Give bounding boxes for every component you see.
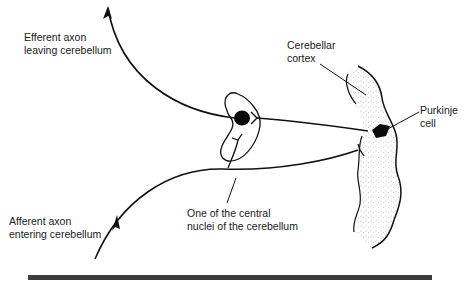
purkinje-label-line-2: cell	[420, 117, 458, 130]
bottom-divider-rule	[28, 275, 432, 280]
nucleus-label-line-2: nuclei of the cerebellum	[187, 220, 298, 233]
purkinje-synapse-terminal	[251, 112, 257, 124]
afferent-label-line-2: entering cerebellum	[9, 228, 101, 241]
central-nucleus-label: One of the central nuclei of the cerebel…	[187, 207, 298, 233]
central-nucleus-outline	[221, 93, 260, 161]
efferent-arrowhead-icon	[103, 6, 112, 19]
purkinje-cell-label: Purkinje cell	[420, 104, 458, 130]
efferent-axon	[108, 8, 235, 118]
nucleus-leader-line	[227, 178, 236, 203]
afferent-axon-label: Afferent axon entering cerebellum	[9, 215, 101, 241]
efferent-axon-label: Efferent axon leaving cerebellum	[24, 31, 112, 57]
cortex-label-line-2: cortex	[287, 52, 335, 65]
cortex-label-line-1: Cerebellar	[287, 39, 335, 52]
cerebellum-circuit-diagram: Efferent axon leaving cerebellum Cerebel…	[0, 0, 468, 287]
afferent-arrowhead-icon	[112, 215, 120, 231]
afferent-collateral-terminal	[232, 134, 242, 140]
afferent-label-line-1: Afferent axon	[9, 215, 101, 228]
nucleus-neuron-soma	[234, 111, 250, 126]
cerebellar-cortex-shape	[345, 66, 401, 248]
afferent-axon	[95, 150, 358, 259]
purkinje-label-line-1: Purkinje	[420, 104, 458, 117]
cerebellar-cortex-label: Cerebellar cortex	[287, 39, 335, 65]
afferent-collateral	[228, 140, 238, 168]
purkinje-axon	[256, 118, 368, 131]
nucleus-label-line-1: One of the central	[187, 207, 298, 220]
efferent-label-line-2: leaving cerebellum	[24, 44, 112, 57]
efferent-label-line-1: Efferent axon	[24, 31, 112, 44]
